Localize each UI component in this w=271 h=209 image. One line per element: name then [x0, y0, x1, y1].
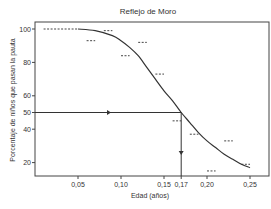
y-tick-label: 50 [23, 109, 31, 116]
arrow-down-icon [179, 151, 184, 155]
y-tick-label: 60 [23, 92, 31, 99]
x-tick-label: 0,20 [200, 181, 214, 188]
y-tick-label: 20 [23, 159, 31, 166]
y-axis: Porcentaje de niños que pasan la pauta 2… [9, 26, 35, 167]
y-tick-label: 80 [23, 59, 31, 66]
median-annotation [35, 110, 184, 176]
chart-title: Reflejo de Moro [120, 7, 177, 16]
y-tick-label: 100 [19, 26, 31, 33]
x-tick-label: 0,17 [174, 181, 188, 188]
fitted-curve [78, 29, 250, 168]
y-axis-label: Porcentaje de niños que pasan la pauta [9, 38, 17, 161]
arrow-right-icon [107, 110, 111, 115]
x-axis: Edad (años) 0,050,100,150,170,200,25 [71, 176, 257, 200]
x-axis-label: Edad (años) [131, 192, 169, 200]
x-tick-label: 0,15 [157, 181, 171, 188]
x-tick-label: 0,25 [243, 181, 257, 188]
x-tick-label: 0,05 [71, 181, 85, 188]
plot-frame [35, 22, 269, 176]
x-tick-label: 0,10 [114, 181, 128, 188]
y-tick-label: 40 [23, 126, 31, 133]
chart: Reflejo de Moro Porcentaje de niños que … [0, 0, 271, 209]
